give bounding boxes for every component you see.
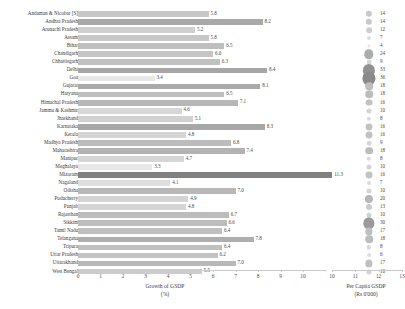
growth-value-label: 4.8 xyxy=(188,130,194,138)
growth-bar xyxy=(78,180,170,186)
growth-bar xyxy=(78,212,229,218)
gsdp-bubble-cell: 12 xyxy=(363,26,403,34)
gsdp-bubble-cell: 18 xyxy=(363,147,403,155)
state-label: Delhi xyxy=(0,65,78,73)
growth-bar-fill xyxy=(78,204,186,210)
gsdp-value-label: 17 xyxy=(380,258,385,266)
gsdp-bubble-cell: 7 xyxy=(363,34,403,42)
growth-value-label: 11.3 xyxy=(334,170,343,178)
growth-bar xyxy=(78,11,209,17)
growth-bar xyxy=(78,253,218,259)
gsdp-value-label: 18 xyxy=(380,234,385,242)
gsdp-value-label: 7 xyxy=(380,33,383,41)
state-label: Gujarat xyxy=(0,81,78,89)
growth-value-label: 4.7 xyxy=(186,154,192,162)
x-tick-label: 4 xyxy=(167,272,170,280)
growth-bar xyxy=(78,261,236,267)
state-label: Chhattisgarh xyxy=(0,57,78,65)
gsdp-bubble-cell: 16 xyxy=(363,171,403,179)
growth-bar-fill xyxy=(78,92,224,98)
growth-bar xyxy=(78,124,265,130)
gsdp-value-label: 8 xyxy=(380,242,383,250)
gsdp-value-label: 6 xyxy=(380,250,383,258)
growth-bar xyxy=(78,245,222,251)
growth-bar-fill xyxy=(78,11,209,17)
growth-value-label: 7.0 xyxy=(238,186,244,194)
growth-bar xyxy=(78,92,224,98)
state-label: Uttar Pradesh xyxy=(0,250,78,258)
growth-bar-fill xyxy=(78,43,224,49)
growth-bar-fill xyxy=(78,180,170,186)
state-label: Manipur xyxy=(0,154,78,162)
growth-bar-fill xyxy=(78,245,222,251)
growth-bar-fill xyxy=(78,148,245,154)
growth-bar xyxy=(78,172,332,178)
right-axis-title: Per Capita GSDP xyxy=(330,283,402,291)
gsdp-bubble xyxy=(365,83,373,91)
growth-bar-fill xyxy=(78,76,155,82)
gsdp-bubble xyxy=(366,99,373,106)
growth-bar-fill xyxy=(78,132,186,138)
gsdp-value-label: 12 xyxy=(380,25,385,33)
gsdp-bubble-cell: 8 xyxy=(363,243,403,251)
growth-value-label: 6.7 xyxy=(231,210,237,218)
growth-value-label: 4.9 xyxy=(190,194,196,202)
x-tick-label: 2 xyxy=(122,272,125,280)
growth-value-label: 6.5 xyxy=(226,41,232,49)
state-label: Madhya Pradesh xyxy=(0,138,78,146)
growth-bar-fill xyxy=(78,196,188,202)
gsdp-value-label: 16 xyxy=(380,122,385,130)
growth-bar-fill xyxy=(78,188,236,194)
state-label: Punjab xyxy=(0,202,78,210)
gsdp-bubble xyxy=(365,195,373,203)
gsdp-bubble xyxy=(366,131,373,138)
growth-bar xyxy=(78,19,263,25)
growth-value-label: 7.1 xyxy=(240,97,246,105)
state-label: Himachal Pradesh xyxy=(0,98,78,106)
state-label: Kerala xyxy=(0,130,78,138)
growth-bar-fill xyxy=(78,59,220,65)
state-label: Tripura xyxy=(0,242,78,250)
growth-bar-fill xyxy=(78,220,227,226)
state-label: Meghalaya xyxy=(0,162,78,170)
gsdp-bubble xyxy=(365,91,373,99)
growth-bar-fill xyxy=(78,228,222,234)
gsdp-value-label: 18 xyxy=(380,81,385,89)
growth-bar-fill xyxy=(78,27,195,33)
x-tick-label: 0 xyxy=(77,272,80,280)
state-label: Assam xyxy=(0,33,78,41)
growth-bar xyxy=(78,27,195,33)
gsdp-value-label: 13 xyxy=(380,202,385,210)
growth-bar xyxy=(78,68,267,74)
state-label: West Bengal xyxy=(0,267,78,275)
growth-value-label: 6.2 xyxy=(220,250,226,258)
gsdp-value-label: 20 xyxy=(380,194,385,202)
state-label: Arunachl Pradesh xyxy=(0,25,78,33)
growth-bar xyxy=(78,164,152,170)
gsdp-value-label: 10 xyxy=(380,186,385,194)
growth-bar-fill xyxy=(78,172,332,178)
growth-value-label: 4.8 xyxy=(188,202,194,210)
gsdp-bubble xyxy=(366,171,373,178)
growth-bar xyxy=(78,148,245,154)
right-tick-label: 10 xyxy=(329,272,334,280)
state-label: Haryana xyxy=(0,89,78,97)
growth-bar xyxy=(78,196,188,202)
growth-value-label: 7.8 xyxy=(256,234,262,242)
x-tick-label: 3 xyxy=(144,272,147,280)
state-label: Uttarakhand xyxy=(0,258,78,266)
state-label: Chandigarh xyxy=(0,49,78,57)
gsdp-bubble xyxy=(367,116,371,120)
x-axis-line xyxy=(78,270,327,271)
x-tick-label: 6 xyxy=(212,272,215,280)
gsdp-value-label: 8 xyxy=(380,154,383,162)
growth-bar xyxy=(78,188,236,194)
gsdp-value-label: 14 xyxy=(380,17,385,25)
gsdp-value-label: 9 xyxy=(380,138,383,146)
gsdp-value-label: 16 xyxy=(380,98,385,106)
growth-bar-fill xyxy=(78,124,265,130)
growth-bar-fill xyxy=(78,116,193,122)
gsdp-bubble xyxy=(366,204,372,210)
gsdp-value-label: 33 xyxy=(380,65,385,73)
x-axis-title-unit: (%) xyxy=(110,291,220,299)
